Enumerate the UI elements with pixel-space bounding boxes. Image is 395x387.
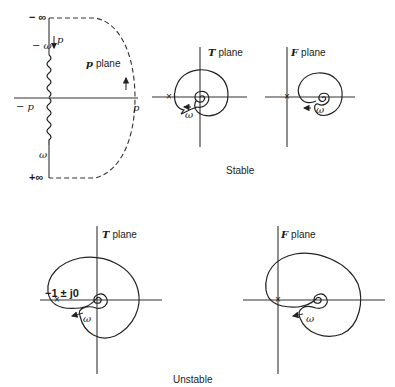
label-pos-infinity: +∞ <box>29 171 43 183</box>
p-plane-figure: − ∞ − ω p − p p ω +∞ pplane <box>14 11 140 183</box>
label-neg-infinity: − ∞ <box>29 11 46 23</box>
unstable-caption: Unstable <box>173 374 213 385</box>
label-p: p <box>133 102 140 113</box>
t-omega-label: ω <box>83 313 91 324</box>
stable-f-plane-figure: × ω Fplane <box>265 47 355 147</box>
origin-marker: × <box>284 91 290 102</box>
critical-point-label: −1 ± j0 <box>45 287 79 299</box>
f-plane-title: Fplane <box>280 229 316 240</box>
f-omega-label: ω <box>306 313 314 324</box>
label-neg-p: − p <box>16 101 35 112</box>
label-neg-omega: − ω <box>32 40 52 51</box>
t-plane-title: Tplane <box>102 229 137 240</box>
p-plane-indented-contour <box>47 55 51 145</box>
label-p-arrow: p <box>57 34 64 45</box>
label-omega: ω <box>39 149 47 160</box>
f-direction-arrow-icon <box>293 314 303 316</box>
p-plane-title: pplane <box>86 58 121 69</box>
unstable-t-plane-figure: × −1 ± j0 ω Tplane <box>40 226 162 374</box>
f-plane-title: Fplane <box>290 47 326 58</box>
t-locus <box>174 70 228 116</box>
stable-caption: Stable <box>226 165 255 176</box>
t-direction-arrow-icon <box>72 313 83 316</box>
t-plane-title: Tplane <box>208 47 243 58</box>
f-omega-label: ω <box>316 104 324 115</box>
nyquist-diagram: − ∞ − ω p − p p ω +∞ pplane × ω Tplane ×… <box>0 0 395 387</box>
stable-t-plane-figure: × ω Tplane <box>152 47 247 147</box>
t-omega-label: ω <box>185 109 193 120</box>
unstable-f-plane-figure: × ω Fplane <box>243 226 385 374</box>
origin-marker: × <box>275 294 281 305</box>
critical-point-marker: × <box>166 91 172 102</box>
